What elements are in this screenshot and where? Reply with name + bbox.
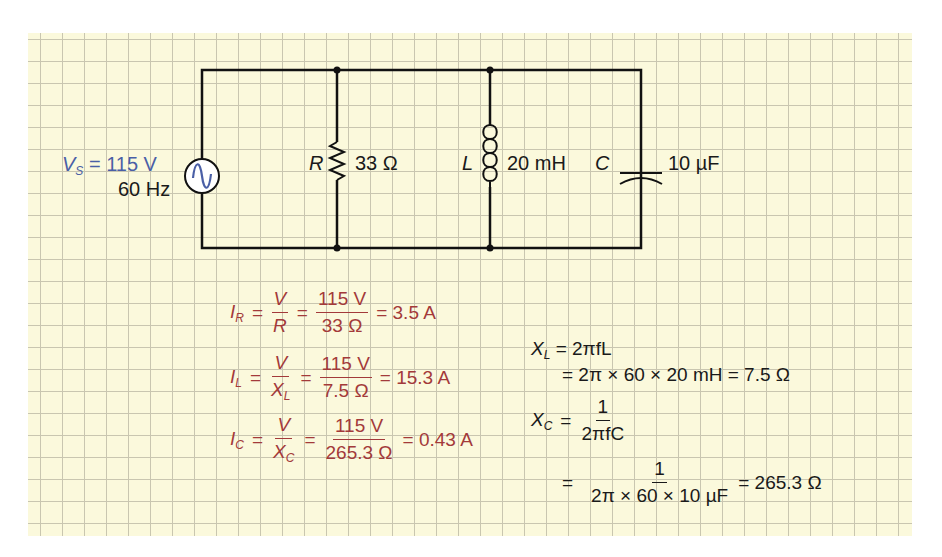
equation-ic: IC = VXC = 115 V265.3 Ω = 0.43 A	[230, 414, 473, 465]
equation-xl-line1: XL = 2πfL	[531, 339, 612, 361]
source-frequency-label: 60 Hz	[118, 179, 170, 199]
equation-ir: IR = VR = 115 V33 Ω = 3.5 A	[230, 288, 436, 337]
equation-xc-line2: = 12π × 60 × 10 µF = 265.3 Ω	[562, 458, 822, 507]
resistor-symbol: R	[309, 153, 323, 173]
capacitor-symbol: C	[595, 153, 609, 173]
equation-xl-line2: = 2π × 60 × 20 mH = 7.5 Ω	[562, 365, 790, 384]
inductor-symbol: L	[462, 153, 473, 173]
capacitor-value: 10 µF	[668, 153, 720, 173]
source-voltage-label: VS = 115 V	[62, 154, 157, 177]
equation-xc-line1: XC = 12πfC	[531, 396, 626, 445]
resistor-value: 33 Ω	[355, 153, 398, 173]
ac-source-icon	[185, 159, 219, 193]
equation-il: IL = VXL = 115 V7.5 Ω = 15.3 A	[230, 352, 450, 403]
inductor-value: 20 mH	[507, 153, 566, 173]
